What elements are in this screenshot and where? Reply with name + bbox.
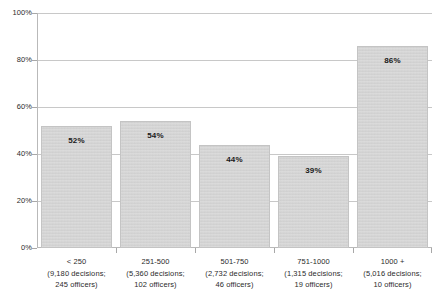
- y-axis-tick-label-80: 80%: [0, 56, 32, 64]
- x-axis-tickmark-4: [353, 248, 354, 253]
- bar-slot-2: 44%: [195, 13, 274, 248]
- category-label-2: 501-750 (2,732 decisions; 46 officers): [195, 256, 274, 291]
- x-axis-tickmark-3: [274, 248, 275, 253]
- y-axis-tickmark-0: [32, 248, 37, 249]
- bar-value-label-4: 86%: [358, 56, 427, 65]
- category-sub-0-b: 245 officers): [37, 279, 116, 291]
- category-label-1: 251-500 (5,360 decisions; 102 officers): [116, 256, 195, 291]
- y-axis-tick-label-40: 40%: [0, 150, 32, 158]
- category-label-0: < 250 (9,180 decisions; 245 officers): [37, 256, 116, 291]
- bar-1000-plus: 86%: [357, 46, 428, 248]
- category-label-3: 751-1000 (1,315 decisions; 19 officers): [274, 256, 353, 291]
- y-axis-tick-label-100: 100%: [0, 9, 32, 17]
- y-axis-tick-label-20: 20%: [0, 197, 32, 205]
- y-axis-tick-label-60: 60%: [0, 103, 32, 111]
- bar-value-label-1: 54%: [121, 131, 190, 140]
- category-sub-2-b: 46 officers): [195, 279, 274, 291]
- bar-value-label-0: 52%: [42, 136, 111, 145]
- x-axis-tickmark-1: [116, 248, 117, 253]
- category-sub-1-b: 102 officers): [116, 279, 195, 291]
- bar-series: 52% 54% 44% 39% 86%: [37, 13, 432, 248]
- y-axis-tick-label-0: 0%: [0, 244, 32, 252]
- category-name-3: 751-1000: [274, 256, 353, 268]
- category-sub-4-a: (5,016 decisions;: [353, 268, 432, 280]
- bar-value-label-2: 44%: [200, 155, 269, 164]
- category-sub-3-b: 19 officers): [274, 279, 353, 291]
- category-name-1: 251-500: [116, 256, 195, 268]
- bar-slot-4: 86%: [353, 13, 432, 248]
- bar-value-label-3: 39%: [279, 166, 348, 175]
- bar-slot-0: 52%: [37, 13, 116, 248]
- category-name-2: 501-750: [195, 256, 274, 268]
- bar-751-1000: 39%: [278, 156, 349, 248]
- category-sub-3-a: (1,315 decisions;: [274, 268, 353, 280]
- x-axis-tickmark-2: [195, 248, 196, 253]
- category-name-0: < 250: [37, 256, 116, 268]
- category-sub-1-a: (5,360 decisions;: [116, 268, 195, 280]
- x-axis-tickmark-5: [431, 248, 432, 253]
- category-name-4: 1000 +: [353, 256, 432, 268]
- bar-lt-250: 52%: [41, 126, 112, 248]
- bar-slot-1: 54%: [116, 13, 195, 248]
- bar-501-750: 44%: [199, 145, 270, 248]
- x-axis-category-labels: < 250 (9,180 decisions; 245 officers) 25…: [37, 256, 432, 302]
- bar-251-500: 54%: [120, 121, 191, 248]
- category-sub-0-a: (9,180 decisions;: [37, 268, 116, 280]
- bar-chart: 100% 80% 60% 40% 20% 0% 52% 54% 44%: [0, 0, 439, 302]
- category-label-4: 1000 + (5,016 decisions; 10 officers): [353, 256, 432, 291]
- category-sub-2-a: (2,732 decisions;: [195, 268, 274, 280]
- bar-slot-3: 39%: [274, 13, 353, 248]
- category-sub-4-b: 10 officers): [353, 279, 432, 291]
